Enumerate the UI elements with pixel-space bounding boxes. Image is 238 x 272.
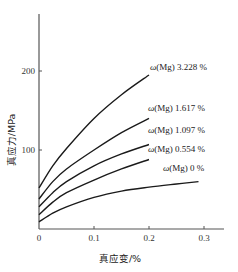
x-tick-label: 0.2: [143, 233, 154, 243]
axes: [39, 14, 224, 229]
series-label: ω(Mg) 1.617 %: [148, 103, 206, 113]
series-curve: [39, 159, 149, 214]
x-axis-label: 真应变/%: [99, 253, 141, 264]
series-curve: [39, 118, 149, 199]
x-tick-label: 0: [37, 233, 42, 243]
series-label: ω(Mg) 0 %: [163, 163, 205, 173]
series-curve: [39, 75, 149, 188]
x-tick-label: 0.1: [88, 233, 99, 243]
series-label: ω(Mg) 1.097 %: [148, 125, 206, 135]
y-tick-label: 200: [22, 66, 36, 76]
x-tick-label: 0.3: [198, 233, 210, 243]
y-tick-label: 100: [22, 145, 36, 155]
stress-strain-chart: 00.10.20.3100200 ω(Mg) 3.228 %ω(Mg) 1.61…: [0, 0, 238, 272]
series-label: ω(Mg) 0.554 %: [148, 144, 206, 154]
ticks: 00.10.20.3100200: [22, 66, 211, 243]
series-curve: [39, 182, 199, 222]
series-label: ω(Mg) 3.228 %: [150, 62, 208, 72]
y-axis-label: 真应力/MPa: [6, 114, 17, 167]
series-labels: ω(Mg) 3.228 %ω(Mg) 1.617 %ω(Mg) 1.097 %ω…: [148, 62, 208, 173]
